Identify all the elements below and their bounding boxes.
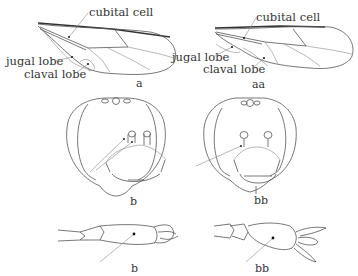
caption-aa: aa	[252, 78, 266, 91]
caption-bb-tarsus: bb	[255, 262, 269, 275]
panel-a-wing: cubital cell jugal lobe claval lobe a	[4, 5, 176, 90]
caption-b-tarsus: b	[131, 262, 138, 275]
panel-aa-wing: cubital cell jugal lobe claval lobe aa	[170, 10, 353, 91]
label-cubital-cell-a: cubital cell	[89, 5, 154, 19]
panel-b-head: b	[67, 98, 166, 209]
caption-b-head: b	[130, 195, 137, 208]
panel-bb-tarsus: bb	[214, 223, 326, 275]
label-jugal-lobe-a: jugal lobe	[4, 54, 63, 68]
label-claval-lobe-aa: claval lobe	[203, 62, 266, 76]
label-cubital-cell-aa: cubital cell	[256, 10, 321, 24]
label-claval-lobe-a: claval lobe	[24, 67, 87, 81]
panel-b-tarsus: b	[58, 225, 178, 275]
panel-bb-head: bb	[196, 98, 296, 207]
caption-a: a	[136, 77, 143, 90]
caption-bb-head: bb	[254, 194, 268, 207]
morphology-figure: cubital cell jugal lobe claval lobe a cu…	[0, 0, 358, 276]
